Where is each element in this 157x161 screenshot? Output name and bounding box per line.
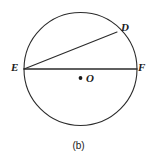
geometry-figure: D E F O (b) xyxy=(0,0,157,161)
circle-diagram-svg xyxy=(0,0,157,161)
point-label-f: F xyxy=(138,62,145,73)
point-label-d: D xyxy=(121,22,129,33)
figure-caption: (b) xyxy=(0,141,157,151)
chord-segment-ED xyxy=(24,32,117,69)
point-label-e: E xyxy=(11,62,18,73)
point-label-o: O xyxy=(86,73,94,84)
center-point-dot xyxy=(79,76,83,80)
